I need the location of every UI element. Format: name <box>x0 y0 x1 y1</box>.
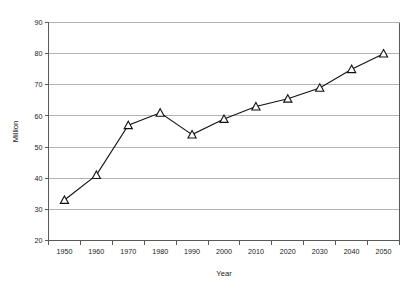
data-point-marker-2020 <box>284 95 292 102</box>
x-tick-label-2010: 2010 <box>248 247 264 256</box>
data-point-marker-1950 <box>60 196 68 203</box>
x-tick-label-1990: 1990 <box>184 247 200 256</box>
line-chart: 2030405060708090195019601970198019902000… <box>0 0 417 291</box>
x-tick-label-2040: 2040 <box>344 247 360 256</box>
y-tick-label-40: 40 <box>35 174 43 183</box>
y-tick-label-70: 70 <box>35 80 43 89</box>
data-point-marker-1960 <box>92 171 100 178</box>
data-point-marker-1990 <box>188 131 196 138</box>
y-tick-label-90: 90 <box>35 18 43 27</box>
chart-container: 2030405060708090195019601970198019902000… <box>0 0 417 291</box>
y-tick-label-20: 20 <box>35 236 43 245</box>
y-tick-label-30: 30 <box>35 205 43 214</box>
x-tick-label-1970: 1970 <box>120 247 136 256</box>
y-axis-title: Million <box>11 121 20 143</box>
data-point-marker-1970 <box>124 121 132 128</box>
x-tick-label-1980: 1980 <box>152 247 168 256</box>
x-tick-label-2030: 2030 <box>312 247 328 256</box>
y-tick-label-60: 60 <box>35 112 43 121</box>
x-tick-label-2000: 2000 <box>216 247 232 256</box>
x-tick-label-2050: 2050 <box>376 247 392 256</box>
data-point-marker-2040 <box>348 65 356 72</box>
x-axis-title: Year <box>216 269 232 278</box>
y-tick-label-50: 50 <box>35 143 43 152</box>
data-point-marker-1980 <box>156 109 164 116</box>
y-tick-label-80: 80 <box>35 49 43 58</box>
x-tick-label-1960: 1960 <box>88 247 104 256</box>
x-tick-label-1950: 1950 <box>56 247 72 256</box>
x-tick-label-2020: 2020 <box>280 247 296 256</box>
